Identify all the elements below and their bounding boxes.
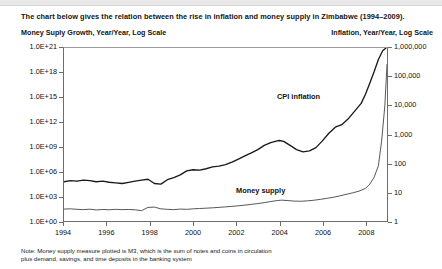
x-tick-label: 2000	[185, 228, 201, 237]
x-tick-mark	[236, 222, 237, 226]
series-canvas	[64, 48, 387, 221]
left-tick-label: 1.0E+09	[30, 143, 57, 151]
x-tick-label: 2006	[315, 228, 331, 237]
right-tick-mark	[388, 76, 392, 77]
left-tick-label: 1.0E+00	[30, 218, 57, 226]
money-supply-line	[64, 64, 387, 210]
x-tick-mark	[280, 222, 281, 226]
left-tick-label: 1.0E+12	[30, 118, 57, 126]
cpi-inflation-line	[64, 48, 386, 184]
plot-area	[63, 47, 388, 222]
annotation-cpi-inflation: CPI inflation	[277, 92, 320, 101]
x-tick-label: 2004	[272, 228, 288, 237]
x-tick-mark	[150, 222, 151, 226]
left-tick-label: 1.0E+03	[30, 193, 57, 201]
top-band	[0, 0, 442, 6]
x-tick-label: 1998	[142, 228, 158, 237]
right-tick-label: 100	[394, 160, 406, 168]
right-tick-mark	[388, 222, 392, 223]
right-tick-label: 10,000	[394, 101, 416, 109]
right-tick-label: 10	[394, 189, 402, 197]
annotation-money-supply: Money supply	[236, 186, 285, 195]
right-tick-mark	[388, 47, 392, 48]
left-tick-label: 1.0E+15	[30, 93, 57, 101]
chart-page: The chart below gives the relation betwe…	[0, 0, 442, 269]
left-tick-label: 1.0E+18	[30, 68, 57, 76]
left-axis-caption: Money Suply Growth, Year/Year, Log Scale	[21, 28, 166, 37]
page-title: The chart below gives the relation betwe…	[21, 12, 433, 22]
right-tick-mark	[388, 105, 392, 106]
footnote: Note: Money supply measure plotted is M3…	[21, 247, 421, 263]
x-tick-mark	[366, 222, 367, 226]
right-tick-mark	[388, 193, 392, 194]
left-tick-label: 1.0E+06	[30, 168, 57, 176]
footnote-line-1: Note: Money supply measure plotted is M3…	[21, 247, 421, 255]
right-axis-caption: Inflation, Year/Year, Log Scale	[331, 28, 433, 37]
x-tick-label: 1994	[55, 228, 71, 237]
left-tick-label: 1.0E+21	[30, 43, 57, 51]
right-tick-label: 1,000	[394, 131, 412, 139]
x-tick-mark	[63, 222, 64, 226]
right-tick-label: 100,000	[394, 72, 420, 80]
x-tick-mark	[106, 222, 107, 226]
right-tick-label: 1	[394, 218, 398, 226]
x-tick-label: 2008	[358, 228, 374, 237]
right-tick-label: 1,000,000	[394, 43, 426, 51]
right-tick-mark	[388, 135, 392, 136]
x-tick-mark	[323, 222, 324, 226]
x-tick-label: 2002	[228, 228, 244, 237]
x-tick-label: 1996	[98, 228, 114, 237]
x-tick-mark	[193, 222, 194, 226]
right-tick-mark	[388, 164, 392, 165]
footnote-line-2: plus demand, savings, and time deposits …	[21, 255, 421, 263]
